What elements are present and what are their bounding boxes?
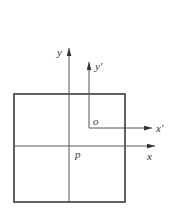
x-axis-label: x — [146, 150, 152, 162]
y-axis-label: y — [56, 46, 62, 58]
origin-p-label: p — [74, 148, 81, 160]
origin-o-label: o — [93, 115, 99, 127]
y-prime-axis-label: y' — [94, 60, 103, 72]
coordinate-frame-diagram: y y' o x' p x — [0, 0, 174, 211]
x-prime-axis-label: x' — [155, 122, 164, 134]
